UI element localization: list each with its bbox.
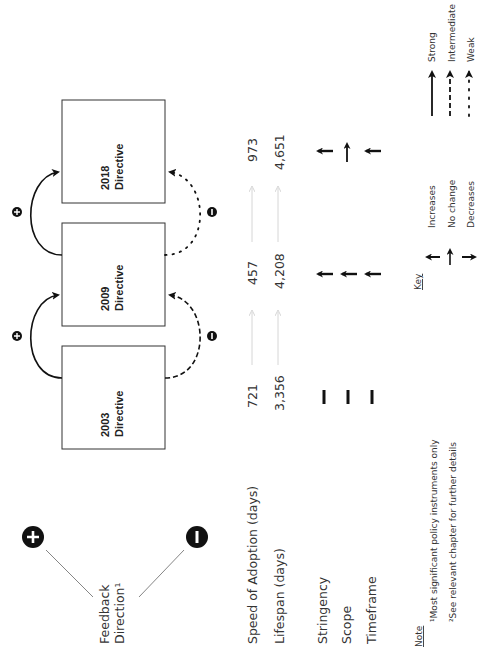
directive-label: Directive	[113, 144, 125, 190]
change-arrows-2018	[318, 144, 381, 162]
key-legend: Key Increases No change Decreases Strong…	[413, 3, 476, 290]
note-line-1: ¹Most significant policy instruments onl…	[429, 439, 439, 622]
row-label-timeframe: Timeframe	[364, 576, 379, 645]
note-title: Note	[414, 625, 424, 647]
key-intermediate: Intermediate	[447, 3, 457, 62]
key-increases: Increases	[427, 185, 437, 228]
directive-box-2003: 2003 Directive	[62, 346, 165, 449]
key-no-change: No change	[447, 179, 457, 228]
plus-icon	[12, 207, 22, 217]
directive-box-2009: 2009 Directive	[62, 223, 165, 326]
positive-feedback-arrow-2003-2009	[31, 295, 62, 378]
speed-value-2003: 721	[245, 384, 260, 408]
directive-year: 2003	[99, 413, 111, 437]
key-weak: Weak	[466, 37, 476, 62]
key-title: Key	[413, 273, 423, 290]
note-line-2: ²See relevant chapter for further detail…	[448, 442, 458, 622]
minus-icon	[207, 331, 217, 341]
row-label-stringency: Stringency	[315, 576, 330, 644]
minus-icon	[186, 526, 208, 548]
feedback-direction-title-2: Direction¹	[112, 583, 127, 644]
plus-icon	[22, 526, 44, 548]
lifespan-value-2018: 4,651	[272, 134, 287, 170]
diagram-canvas: 2018 Directive 2009 Directive 2003 Direc…	[0, 0, 483, 653]
directive-year: 2009	[99, 287, 111, 311]
minus-icon	[207, 207, 217, 217]
note-section: Note ¹Most significant policy instrument…	[414, 439, 458, 647]
positive-feedback-arrow-2009-2018	[31, 172, 62, 255]
directive-year: 2018	[99, 166, 111, 190]
directive-box-2018: 2018 Directive	[62, 100, 165, 203]
negative-feedback-arrow-2003-2009-intermediate	[165, 295, 200, 378]
row-label-lifespan: Lifespan (days)	[272, 548, 287, 644]
row-label-scope: Scope	[339, 606, 354, 644]
feedback-direction-title: Feedback	[97, 584, 112, 644]
row-label-speed: Speed of Adoption (days)	[245, 486, 260, 644]
negative-feedback-arrow-2009-2018-weak	[165, 172, 200, 255]
baseline-marks-2003	[324, 390, 372, 404]
speed-value-2018: 973	[245, 138, 260, 162]
plus-icon	[12, 331, 22, 341]
key-strong: Strong	[427, 32, 437, 62]
lifespan-value-2009: 4,208	[272, 253, 287, 289]
key-decreases: Decreases	[466, 181, 476, 228]
directive-label: Directive	[113, 391, 125, 437]
lifespan-value-2003: 3,356	[272, 375, 287, 411]
directive-label: Directive	[113, 265, 125, 311]
speed-value-2009: 457	[245, 261, 260, 285]
feedback-direction-legend: Feedback Direction¹	[22, 526, 208, 644]
